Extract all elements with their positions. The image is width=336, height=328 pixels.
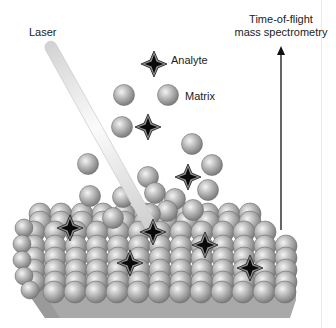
matrix-sphere <box>182 134 203 155</box>
matrix-sphere <box>274 281 296 303</box>
matrix-sphere <box>232 281 254 303</box>
matrix-sphere <box>158 85 179 106</box>
matrix-sphere <box>127 281 149 303</box>
analyte-label: Analyte <box>171 54 208 67</box>
frame-edge <box>321 0 322 328</box>
matrix-sphere <box>148 281 170 303</box>
matrix-sphere <box>43 281 65 303</box>
matrix-sphere <box>211 281 233 303</box>
matrix-sphere <box>145 183 166 204</box>
matrix-sphere <box>198 180 219 201</box>
matrix-sphere <box>112 117 133 138</box>
matrix-sphere <box>106 281 128 303</box>
laser-label: Laser <box>29 26 57 39</box>
matrix-sphere <box>202 155 223 176</box>
tof-arrow <box>277 46 285 230</box>
matrix-sphere <box>21 281 39 299</box>
matrix-label: Matrix <box>185 90 215 103</box>
matrix-sphere <box>183 200 204 221</box>
matrix-sphere <box>190 281 212 303</box>
maldi-diagram: Laser Analyte Matrix Time-of-flight mass… <box>0 0 336 328</box>
matrix-sphere <box>80 186 101 207</box>
matrix-sphere <box>103 208 124 229</box>
analyte-icon <box>175 164 201 190</box>
matrix-sphere <box>64 281 86 303</box>
tof-label: Time-of-flight mass spectrometry <box>232 13 330 39</box>
tof-label-line2: mass spectrometry <box>232 26 330 39</box>
matrix-sphere <box>13 251 31 269</box>
matrix-sphere <box>78 154 99 175</box>
matrix-sphere <box>169 281 191 303</box>
matrix-sphere <box>114 85 135 106</box>
matrix-sphere <box>15 219 33 237</box>
matrix-sphere <box>253 281 275 303</box>
diagram-canvas <box>0 0 336 328</box>
analyte-icon <box>141 51 167 77</box>
analyte-icon <box>135 114 161 140</box>
matrix-sphere <box>85 281 107 303</box>
matrix-sphere <box>13 235 31 253</box>
tof-label-line1: Time-of-flight <box>232 13 330 26</box>
